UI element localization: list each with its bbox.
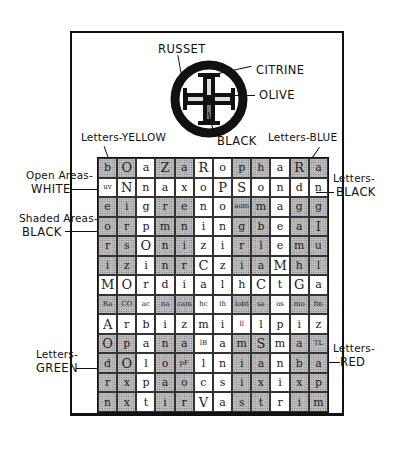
grid-cell: ih — [213, 295, 232, 315]
green-label: GREEN — [36, 362, 78, 374]
grid-cell: g — [232, 217, 251, 237]
grid-cell: d — [98, 353, 117, 373]
grid-cell: m — [290, 236, 309, 256]
grid-cell: l — [194, 353, 213, 373]
grid-cell: Z — [155, 158, 174, 178]
grid-cell: n — [155, 256, 174, 276]
grid-cell: R — [194, 158, 213, 178]
grid-cell: lobt — [232, 295, 251, 315]
grid-cell: n — [155, 236, 174, 256]
grid-cell: a — [251, 256, 270, 276]
grid-cell: r — [98, 236, 117, 256]
letters-blue-label: Letters-BLUE — [268, 131, 337, 143]
grid-cell: d — [155, 275, 174, 295]
olive-leader — [215, 95, 255, 96]
letters-green-label: Letters- — [36, 348, 78, 360]
grid-cell: m — [251, 197, 270, 217]
grid-cell: i — [270, 373, 289, 393]
grid-cell: h — [251, 158, 270, 178]
grid-cell: r — [136, 275, 155, 295]
grid-cell: n — [270, 178, 289, 198]
grid-cell: l — [251, 236, 270, 256]
grid-cell: n — [309, 178, 328, 198]
olive-label: OLIVE — [259, 89, 295, 101]
grid-cell: x — [175, 178, 194, 198]
grid-cell: O — [117, 275, 136, 295]
grid-cell: pF — [175, 353, 194, 373]
grid-cell: os — [270, 295, 289, 315]
grid-cell: d — [290, 178, 309, 198]
black-right-label: BLACK — [336, 186, 376, 198]
grid-cell: n — [213, 353, 232, 373]
grid-cell: i — [155, 392, 174, 412]
letter-grid: bOaZaRophaRauvNnaxoPSondneigrenoaommaggo… — [97, 157, 329, 413]
grid-cell: b — [251, 217, 270, 237]
grid-cell: g — [309, 197, 328, 217]
letters-black-label: Letters- — [333, 172, 375, 184]
grid-cell: o — [251, 178, 270, 198]
grid-cell: p — [232, 158, 251, 178]
grid-cell: u — [309, 236, 328, 256]
shaded-areas-label: Shaded Areas- — [19, 212, 98, 224]
grid-cell: m — [309, 392, 328, 412]
grid-cell: o — [194, 178, 213, 198]
grid-cell: G — [290, 275, 309, 295]
grid-cell: e — [270, 236, 289, 256]
grid-cell: t — [251, 392, 270, 412]
grid-cell: M — [98, 275, 117, 295]
grid-cell: cam — [175, 295, 194, 315]
grid-cell: M — [270, 256, 289, 276]
open-areas-label: Open Areas- — [26, 169, 93, 181]
letters-yellow-label: Letters-YELLOW — [81, 131, 166, 143]
russet-label: RUSSET — [158, 43, 206, 55]
grid-cell: ac — [136, 295, 155, 315]
grid-cell: a — [136, 158, 155, 178]
black-left-label: BLACK — [22, 226, 62, 238]
cross-emblem-icon — [170, 60, 248, 138]
grid-cell: z — [213, 256, 232, 276]
grid-cell: CO — [117, 295, 136, 315]
red-label: RED — [340, 356, 365, 368]
grid-cell: r — [232, 236, 251, 256]
grid-cell: h — [232, 275, 251, 295]
citrine-label: CITRINE — [256, 64, 305, 76]
grid-cell: n — [98, 392, 117, 412]
grid-cell: m — [194, 314, 213, 334]
grid-cell: i — [290, 392, 309, 412]
grid-cell: z — [309, 314, 328, 334]
grid-cell: n — [175, 217, 194, 237]
grid-cell: i — [232, 256, 251, 276]
grid-cell: z — [117, 256, 136, 276]
grid-cell: g — [290, 197, 309, 217]
letters-red-label: Letters- — [333, 342, 375, 354]
grid-cell: uv — [98, 178, 117, 198]
grid-cell: ll — [232, 314, 251, 334]
grid-cell: C — [251, 275, 270, 295]
grid-cell: e — [98, 197, 117, 217]
grid-cell: a — [290, 334, 309, 354]
grid-cell: n — [136, 178, 155, 198]
grid-cell: i — [117, 197, 136, 217]
grid-cell: R — [290, 158, 309, 178]
grid-cell: na — [155, 295, 174, 315]
grid-cell: n — [155, 334, 174, 354]
grid-cell: s — [213, 373, 232, 393]
grid-cell: e — [270, 217, 289, 237]
grid-cell: p — [117, 334, 136, 354]
grid-cell: O — [117, 353, 136, 373]
white-leader — [70, 189, 98, 190]
grid-cell: b — [290, 353, 309, 373]
grid-cell: m — [232, 334, 251, 354]
grid-cell: z — [194, 236, 213, 256]
grid-cell: e — [175, 197, 194, 217]
grid-cell: i — [232, 373, 251, 393]
grid-cell: m — [155, 217, 174, 237]
grid-cell: r — [98, 373, 117, 393]
grid-cell: r — [117, 217, 136, 237]
grid-cell: x — [251, 373, 270, 393]
grid-cell: z — [175, 314, 194, 334]
grid-cell: hc — [194, 295, 213, 315]
grid-cell: a — [251, 353, 270, 373]
grid-cell: i — [98, 256, 117, 276]
grid-cell: l — [136, 353, 155, 373]
